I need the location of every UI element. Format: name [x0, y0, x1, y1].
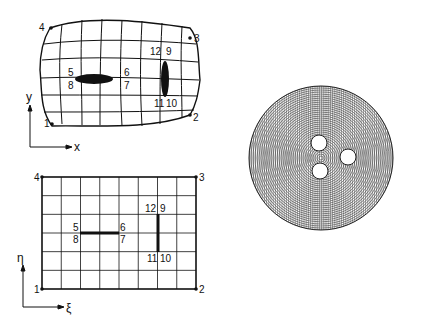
corner-label-1: 1	[44, 118, 50, 129]
slit-label-5: 5	[68, 67, 74, 78]
comp-slit-label-10: 10	[160, 253, 172, 264]
comp-slit-label-9: 9	[160, 203, 166, 214]
figure: 1 2 3 4 5 6 7 8 9 10 11 12 y x 1 2 3 4 5…	[0, 0, 427, 331]
comp-slit-label-5: 5	[73, 222, 79, 233]
slit-label-12: 12	[150, 46, 162, 57]
slit-label-8: 8	[68, 80, 74, 91]
corner-label-4: 4	[39, 22, 45, 33]
disk-boundary	[249, 86, 393, 230]
xi-axis-label: ξ	[66, 301, 72, 315]
corner-label-3: 3	[194, 33, 200, 44]
physical-domain-grid	[40, 19, 200, 126]
slit-label-9: 9	[166, 46, 172, 57]
slit-label-10: 10	[166, 98, 178, 109]
circular-mesh	[249, 86, 393, 230]
horizontal-slit	[75, 74, 113, 84]
comp-slit-label-8: 8	[73, 234, 79, 245]
x-axis-label: x	[74, 140, 80, 154]
comp-slit-label-6: 6	[120, 222, 126, 233]
hole-bottom	[312, 163, 328, 179]
comp-corner-label-2: 2	[199, 284, 205, 295]
slit-label-6: 6	[124, 67, 130, 78]
slit-label-7: 7	[124, 80, 130, 91]
y-axis-label: y	[26, 90, 32, 104]
comp-slit-label-7: 7	[120, 234, 126, 245]
comp-slit-label-12: 12	[145, 203, 157, 214]
slit-label-11: 11	[154, 98, 165, 109]
comp-corner-label-3: 3	[199, 172, 205, 183]
corner-label-2: 2	[193, 112, 199, 123]
vertical-slit	[161, 61, 169, 97]
comp-corner-label-1: 1	[34, 284, 40, 295]
hole-top	[311, 135, 327, 151]
comp-slit-label-11: 11	[147, 253, 158, 264]
hole-right	[340, 149, 356, 165]
comp-corner-label-4: 4	[34, 172, 40, 183]
eta-axis-label: η	[17, 251, 24, 265]
